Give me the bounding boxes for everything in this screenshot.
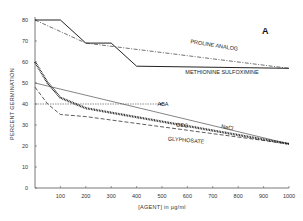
x-tick-label: 100 [56,193,65,199]
series-label: GLYPHOSATE [168,135,205,144]
series-label: METHIONINE SULFOXIMINE [185,69,259,75]
x-tick-label: 900 [259,193,268,199]
x-tick-label: 300 [107,193,116,199]
series-label: PROLINE ANALOG [190,38,239,51]
x-tick-label: 200 [81,193,90,199]
series-nacl [35,83,289,144]
x-tick-label: 600 [183,193,192,199]
germination-chart: 0102030405060708010020030040050060070080… [0,0,303,221]
series-label: ABA [157,101,168,107]
y-tick-label: 30 [22,122,28,128]
series-label: NaCl [221,123,234,131]
x-tick-label: 1000 [283,193,295,199]
y-tick-label: 40 [22,101,28,107]
x-tick-label: 800 [234,193,243,199]
series-proline-analog [35,20,289,68]
series-ccc [35,87,289,144]
y-tick-label: 80 [22,17,28,23]
y-tick-label: 20 [22,143,28,149]
y-tick-label: 60 [22,59,28,65]
plot-area: 0102030405060708010020030040050060070080… [0,0,303,221]
y-tick-label: 0 [25,185,28,191]
x-tick-label: 700 [208,193,217,199]
series-methionine-sulfoximine [35,20,289,68]
x-tick-label: 400 [132,193,141,199]
y-tick-label: 50 [22,80,28,86]
series-label: CCC [176,121,188,128]
y-tick-label: 70 [22,38,28,44]
x-tick-label: 500 [157,193,166,199]
y-tick-label: 10 [22,164,28,170]
